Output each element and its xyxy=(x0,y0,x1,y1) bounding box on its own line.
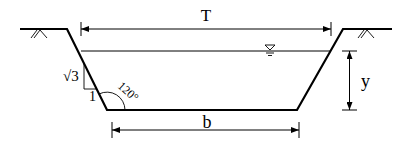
ground-hatch-left-icon xyxy=(31,30,47,38)
bottom-width-dimension: b xyxy=(112,112,299,138)
slope-vertical-label: √3 xyxy=(63,68,79,84)
bottom-width-label: b xyxy=(203,112,212,132)
slope-horizontal-label: 1 xyxy=(89,89,96,104)
top-width-dimension: T xyxy=(81,6,331,36)
slope-triangle: √3 1 xyxy=(63,63,97,104)
depth-dimension: y xyxy=(342,51,370,110)
angle-label: 120° xyxy=(115,79,141,105)
depth-label: y xyxy=(361,71,370,91)
water-surface-icon xyxy=(265,45,275,56)
top-width-label: T xyxy=(201,6,212,25)
channel-diagram: T b y √3 1 120° xyxy=(0,0,409,151)
ground-hatch-right-icon xyxy=(358,30,374,38)
